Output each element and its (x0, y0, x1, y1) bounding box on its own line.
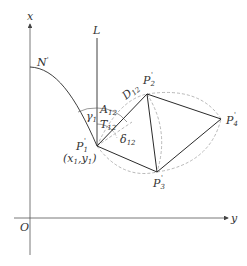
point-P3-label: P3' (152, 174, 165, 191)
origin-label: O (20, 221, 29, 234)
curve-N (30, 67, 97, 146)
point-P2-label: P2' (142, 71, 155, 88)
gamma-label: γ1 (86, 110, 97, 124)
geodetic-diagram: x y O L N' γ1 A1 (0, 0, 247, 266)
curve-label: N' (36, 56, 49, 69)
distance-label: D12 (119, 81, 143, 104)
azimuth-label: A12 (99, 103, 117, 117)
delta-label: δ12 (120, 133, 136, 147)
reference-line-label: L (92, 24, 100, 37)
point-P1-coords: (x1,y1) (63, 152, 96, 166)
x-axis-label: x (27, 10, 34, 23)
y-axis-label: y (230, 212, 238, 225)
grid-bearing-label: T12 (100, 118, 117, 132)
point-P4-label: P4' (225, 111, 238, 128)
